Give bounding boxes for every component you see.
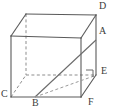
front-face-fill: [11, 36, 81, 97]
edge-back-top: [26, 14, 96, 15]
edge-top-right-receding: [81, 15, 96, 38]
vertex-label-d: D: [99, 1, 106, 11]
edge-top-left-receding: [11, 14, 26, 36]
vertex-label-e: E: [101, 66, 107, 76]
vertex-label-a: A: [99, 26, 106, 36]
vertex-label-b: B: [32, 98, 39, 108]
geometry-figure: A B C D E F: [0, 0, 114, 111]
vertex-label-f: F: [88, 97, 94, 107]
cube-diagram-canvas: [0, 0, 114, 111]
right-angle-marker-icon: [86, 70, 93, 77]
vertex-label-c: C: [1, 89, 8, 99]
